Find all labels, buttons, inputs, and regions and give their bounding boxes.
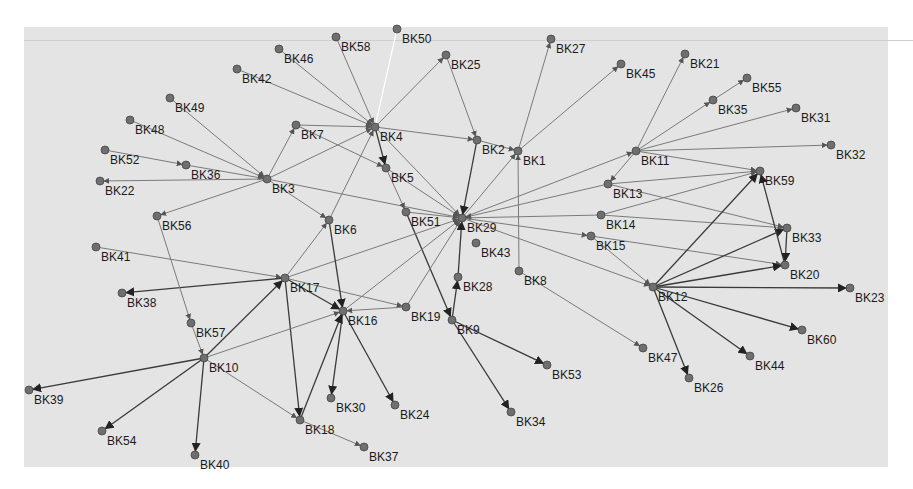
- node-bk48[interactable]: BK48: [126, 116, 165, 137]
- node-dot[interactable]: [391, 401, 399, 409]
- node-bk22[interactable]: BK22: [96, 177, 135, 198]
- node-dot[interactable]: [187, 319, 195, 327]
- node-dot[interactable]: [98, 427, 106, 435]
- node-bk52[interactable]: BK52: [101, 146, 140, 167]
- node-bk35[interactable]: BK35: [709, 96, 748, 117]
- node-dot[interactable]: [746, 352, 754, 360]
- node-dot[interactable]: [101, 146, 109, 154]
- node-dot[interactable]: [454, 273, 462, 281]
- node-dot[interactable]: [472, 239, 480, 247]
- node-bk25[interactable]: BK25: [442, 51, 481, 72]
- node-bk42[interactable]: BK42: [233, 65, 272, 86]
- node-dot[interactable]: [827, 141, 835, 149]
- node-bk53[interactable]: BK53: [543, 361, 582, 382]
- node-dot[interactable]: [360, 443, 368, 451]
- node-bk37[interactable]: BK37: [360, 443, 399, 464]
- node-dot[interactable]: [327, 394, 335, 402]
- node-dot[interactable]: [263, 175, 271, 183]
- node-dot[interactable]: [281, 274, 289, 282]
- node-dot[interactable]: [514, 147, 522, 155]
- node-dot[interactable]: [325, 216, 333, 224]
- node-dot[interactable]: [639, 344, 647, 352]
- node-dot[interactable]: [743, 74, 751, 82]
- node-dot[interactable]: [96, 177, 104, 185]
- node-dot[interactable]: [604, 180, 612, 188]
- node-dot[interactable]: [402, 303, 410, 311]
- node-dot[interactable]: [781, 261, 789, 269]
- node-bk21[interactable]: BK21: [681, 50, 720, 71]
- node-bk32[interactable]: BK32: [827, 141, 866, 162]
- node-dot[interactable]: [685, 374, 693, 382]
- node-dot[interactable]: [200, 354, 208, 362]
- node-bk12[interactable]: BK12: [649, 283, 688, 304]
- node-dot[interactable]: [649, 283, 657, 291]
- node-dot[interactable]: [166, 94, 174, 102]
- node-dot[interactable]: [292, 121, 300, 129]
- node-dot[interactable]: [118, 289, 126, 297]
- node-dot[interactable]: [371, 123, 379, 131]
- node-bk43[interactable]: BK43: [472, 239, 511, 260]
- node-bk4[interactable]: BK4: [371, 123, 403, 144]
- node-dot[interactable]: [393, 25, 401, 33]
- node-bk3[interactable]: BK3: [263, 175, 295, 196]
- node-dot[interactable]: [153, 212, 161, 220]
- node-bk49[interactable]: BK49: [166, 94, 205, 115]
- node-dot[interactable]: [783, 224, 791, 232]
- node-dot[interactable]: [442, 51, 450, 59]
- node-bk15[interactable]: BK15: [587, 232, 626, 253]
- node-dot[interactable]: [756, 167, 764, 175]
- node-dot[interactable]: [792, 104, 800, 112]
- node-bk40[interactable]: BK40: [191, 451, 230, 472]
- node-dot[interactable]: [275, 45, 283, 53]
- node-bk54[interactable]: BK54: [98, 427, 137, 448]
- node-bk18[interactable]: BK18: [296, 416, 335, 437]
- node-dot[interactable]: [597, 211, 605, 219]
- node-bk24[interactable]: BK24: [391, 401, 430, 422]
- node-dot[interactable]: [617, 60, 625, 68]
- node-dot[interactable]: [709, 96, 717, 104]
- node-dot[interactable]: [339, 307, 347, 315]
- node-dot[interactable]: [92, 243, 100, 251]
- node-bk39[interactable]: BK39: [25, 386, 64, 407]
- node-bk10[interactable]: BK10: [200, 354, 239, 375]
- node-bk23[interactable]: BK23: [846, 284, 885, 305]
- node-bk60[interactable]: BK60: [798, 326, 837, 347]
- node-dot[interactable]: [126, 116, 134, 124]
- node-bk31[interactable]: BK31: [792, 104, 831, 125]
- node-bk9[interactable]: BK9: [448, 316, 480, 337]
- node-dot[interactable]: [681, 50, 689, 58]
- node-dot[interactable]: [507, 408, 515, 416]
- node-bk34[interactable]: BK34: [507, 408, 546, 429]
- node-dot[interactable]: [473, 136, 481, 144]
- node-dot[interactable]: [233, 65, 241, 73]
- node-dot[interactable]: [632, 147, 640, 155]
- node-dot[interactable]: [458, 214, 466, 222]
- node-bk20[interactable]: BK20: [781, 261, 820, 282]
- node-bk41[interactable]: BK41: [92, 243, 131, 264]
- node-dot[interactable]: [798, 326, 806, 334]
- node-dot[interactable]: [587, 232, 595, 240]
- node-bk7[interactable]: BK7: [292, 121, 324, 142]
- node-dot[interactable]: [332, 33, 340, 41]
- node-dot[interactable]: [25, 386, 33, 394]
- node-dot[interactable]: [846, 284, 854, 292]
- node-dot[interactable]: [402, 208, 410, 216]
- node-dot[interactable]: [191, 451, 199, 459]
- node-dot[interactable]: [296, 416, 304, 424]
- node-bk36[interactable]: BK36: [182, 161, 221, 182]
- node-bk46[interactable]: BK46: [275, 45, 314, 66]
- node-bk27[interactable]: BK27: [547, 35, 586, 56]
- node-bk55[interactable]: BK55: [743, 74, 782, 95]
- node-bk30[interactable]: BK30: [327, 394, 366, 415]
- node-bk50[interactable]: BK50: [393, 25, 432, 46]
- node-bk47[interactable]: BK47: [639, 344, 678, 365]
- node-bk2[interactable]: BK2: [473, 136, 505, 157]
- node-bk1[interactable]: BK1: [514, 147, 546, 168]
- node-bk19[interactable]: BK19: [402, 303, 441, 324]
- node-bk44[interactable]: BK44: [746, 352, 785, 373]
- node-dot[interactable]: [547, 35, 555, 43]
- node-dot[interactable]: [543, 361, 551, 369]
- node-bk51[interactable]: BK51: [402, 208, 441, 229]
- node-bk14[interactable]: BK14: [597, 211, 636, 232]
- node-bk5[interactable]: BK5: [382, 164, 414, 185]
